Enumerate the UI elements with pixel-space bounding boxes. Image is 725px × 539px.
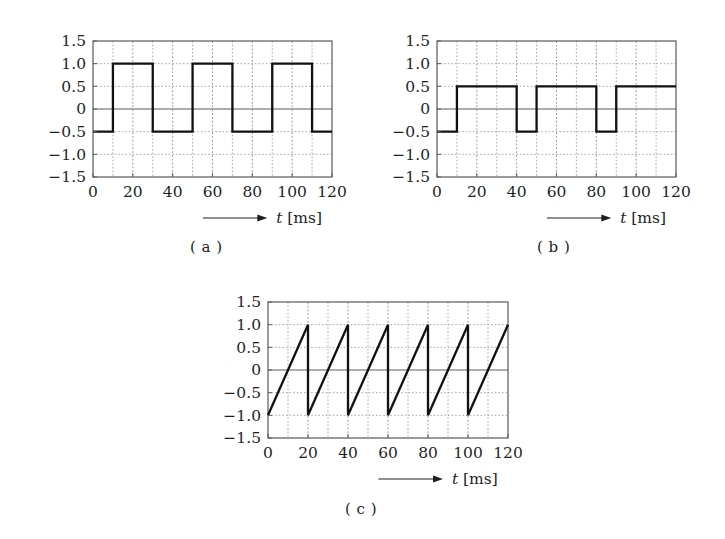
x-tick-label: 20 [467,183,487,201]
x-tick-label: 60 [378,444,398,462]
x-tick-label: 0 [263,444,273,462]
y-tick-label: −1.0 [392,146,430,164]
y-tick-label: 0.5 [61,78,86,96]
y-tick-label: −1.5 [48,168,86,186]
x-tick-label: 120 [317,183,347,201]
x-tick-label: 100 [453,444,483,462]
y-tick-label: 1.5 [405,32,430,50]
y-tick-label: −0.5 [392,123,430,141]
chart-panel-b: 1.51.00.50−0.5−1.0−1.5020406080100120t[m… [344,22,714,237]
y-tick-label: −1.0 [223,407,261,425]
chart-a-svg: 1.51.00.50−0.5−1.0−1.5020406080100120t[m… [0,22,360,237]
x-tick-label: 100 [621,183,651,201]
axis-caption-symbol: t [276,209,283,227]
y-tick-label: 1.0 [405,55,430,73]
x-tick-label: 80 [418,444,438,462]
x-tick-label: 80 [242,183,262,201]
x-tick-label: 80 [586,183,606,201]
y-tick-label: 1.0 [61,55,86,73]
y-tick-label: −1.0 [48,146,86,164]
y-tick-label: 0.5 [236,339,261,357]
y-tick-label: 1.5 [236,293,261,311]
axis-arrow-head-icon [601,214,611,221]
chart-panel-a: 1.51.00.50−0.5−1.0−1.5020406080100120t[m… [0,22,360,237]
x-tick-label: 120 [661,183,691,201]
axis-caption-symbol: t [620,209,627,227]
x-tick-label: 0 [432,183,442,201]
axis-caption-symbol: t [452,470,459,488]
x-tick-label: 40 [338,444,358,462]
x-tick-label: 40 [507,183,527,201]
figure-root: 1.51.00.50−0.5−1.0−1.5020406080100120t[m… [0,0,725,539]
x-tick-label: 100 [277,183,307,201]
y-tick-label: 0 [76,100,86,118]
y-tick-label: 0.5 [405,78,430,96]
chart-panel-c: 1.51.00.50−0.5−1.0−1.5020406080100120t[m… [175,283,545,498]
axis-caption-unit: [ms] [463,470,498,488]
subfigure-label-b: ( b ) [537,238,570,256]
x-tick-label: 60 [203,183,223,201]
chart-c-svg: 1.51.00.50−0.5−1.0−1.5020406080100120t[m… [175,283,545,498]
y-tick-label: 0 [251,361,261,379]
y-tick-label: 0 [420,100,430,118]
y-tick-label: −1.5 [392,168,430,186]
x-tick-label: 20 [123,183,143,201]
chart-b-svg: 1.51.00.50−0.5−1.0−1.5020406080100120t[m… [344,22,714,237]
y-tick-label: 1.5 [61,32,86,50]
axis-caption-unit: [ms] [631,209,666,227]
y-tick-label: −0.5 [223,384,261,402]
axis-arrow-head-icon [257,214,267,221]
subfigure-label-a: ( a ) [190,238,223,256]
y-tick-label: −0.5 [48,123,86,141]
axis-arrow-head-icon [433,475,443,482]
y-tick-label: −1.5 [223,429,261,447]
y-tick-label: 1.0 [236,316,261,334]
x-tick-label: 0 [88,183,98,201]
x-tick-label: 40 [163,183,183,201]
x-tick-label: 120 [493,444,523,462]
x-tick-label: 60 [547,183,567,201]
x-tick-label: 20 [298,444,318,462]
subfigure-label-c: ( c ) [345,500,377,518]
axis-caption-unit: [ms] [287,209,322,227]
